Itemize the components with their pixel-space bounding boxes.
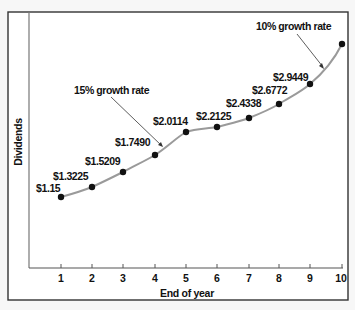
tick-label: 6 <box>214 272 220 284</box>
tick-label: 8 <box>276 272 282 284</box>
data-label: $2.4338 <box>226 97 262 109</box>
data-label: $1.7490 <box>115 136 151 148</box>
y-axis-title: Dividends <box>12 118 24 166</box>
data-point <box>89 184 95 190</box>
tick-label: 7 <box>246 272 252 284</box>
tick-label: 9 <box>307 272 313 284</box>
data-point <box>339 41 345 47</box>
data-label: $2.2125 <box>196 110 232 122</box>
data-label: $2.9449 <box>273 71 309 83</box>
data-point <box>276 101 282 107</box>
chart-frame <box>8 12 348 300</box>
data-label: $2.0114 <box>153 115 188 127</box>
tick-label: 4 <box>152 272 158 284</box>
tick-label: 2 <box>89 272 95 284</box>
data-label: $1.3225 <box>53 170 89 182</box>
x-axis-title: End of year <box>160 287 214 299</box>
annotation-10-percent: 10% growth rate <box>256 20 332 32</box>
annotation-15-percent: 15% growth rate <box>74 84 150 96</box>
tick-label: 1 <box>58 272 64 284</box>
tick-label: 5 <box>183 272 189 284</box>
data-point <box>58 194 64 200</box>
data-point <box>214 124 220 130</box>
data-point <box>246 115 252 121</box>
data-point <box>120 169 126 175</box>
dividend-growth-chart: 1 2 3 4 5 6 7 8 9 10 End of year Dividen… <box>0 0 355 310</box>
data-point <box>183 129 189 135</box>
tick-label: 3 <box>120 272 126 284</box>
tick-label: 10 <box>335 272 347 284</box>
data-label: $2.6772 <box>252 84 288 96</box>
data-point <box>152 152 158 158</box>
data-label: $1.15 <box>36 182 61 194</box>
data-label: $1.5209 <box>85 155 121 167</box>
